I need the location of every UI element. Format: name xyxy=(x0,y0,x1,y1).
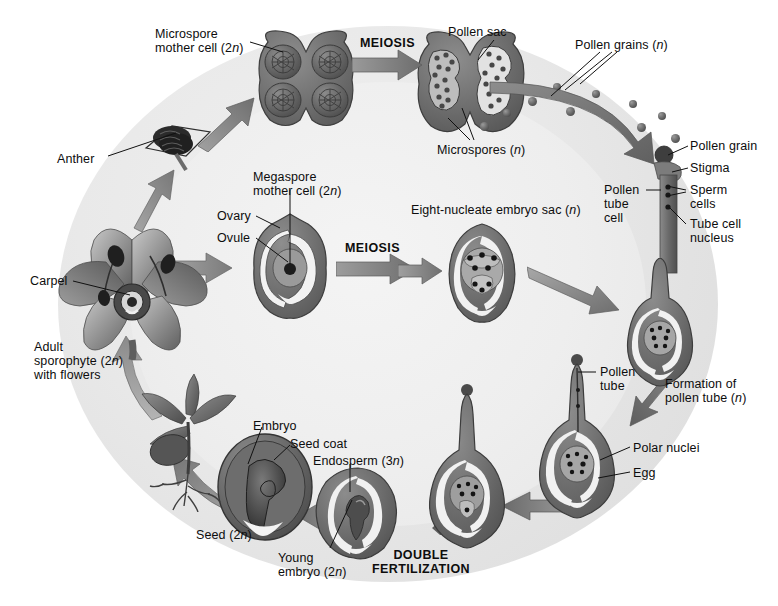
label-megaspore-mother-cell: Megaspore mother cell (2n) xyxy=(253,170,341,198)
life-cycle-diagram: Microspore mother cell (2n) Pollen sac P… xyxy=(0,0,778,606)
label-meiosis-top: MEIOSIS xyxy=(360,36,415,50)
fertilized-ovule-structure xyxy=(420,382,516,552)
arrow-embryosac-to-ovule xyxy=(527,264,623,320)
label-embryo: Embryo xyxy=(253,419,297,433)
label-carpel: Carpel xyxy=(30,274,67,288)
label-polar-nuclei: Polar nuclei xyxy=(633,441,700,455)
anther-structure xyxy=(142,118,214,172)
label-seed-coat: Seed coat xyxy=(290,437,347,451)
label-egg: Egg xyxy=(633,466,656,480)
label-meiosis-middle: MEIOSIS xyxy=(345,241,400,255)
label-microspore-mother-cell: Microspore mother cell (2n) xyxy=(155,27,243,55)
label-microspores: Microspores (n) xyxy=(437,143,525,157)
flower-sporophyte xyxy=(46,200,216,360)
label-pollen-sac: Pollen sac xyxy=(448,25,507,39)
label-sperm-cells: Sperm cells xyxy=(690,183,727,211)
arrow-meiosis-top xyxy=(352,48,424,82)
label-seed: Seed (2n) xyxy=(196,528,252,542)
label-anther: Anther xyxy=(57,152,94,166)
label-ovary: Ovary xyxy=(217,209,251,223)
label-formation-of-pollen-tube: Formation of pollen tube (n) xyxy=(665,377,746,405)
label-stigma: Stigma xyxy=(690,161,730,175)
label-pollen-tube-cell: Pollen tube cell xyxy=(604,183,639,225)
label-young-embryo: Young embryo (2n) xyxy=(278,551,347,579)
label-endosperm: Endosperm (3n) xyxy=(313,454,404,468)
arrow-into-embryo-sac xyxy=(398,256,444,286)
label-pollen-grains: Pollen grains (n) xyxy=(575,38,668,52)
label-embryo-sac: Eight-nucleate embryo sac (n) xyxy=(411,203,581,217)
ovary-ovule-structure xyxy=(248,212,332,322)
seedling-structure xyxy=(128,372,248,512)
microsporangium xyxy=(252,28,360,128)
label-tube-cell-nucleus: Tube cell nucleus xyxy=(690,217,741,245)
germinating-pollen-structure xyxy=(648,145,694,275)
label-adult-sporophyte: Adult sporophyte (2n) with flowers xyxy=(34,340,123,382)
label-pollen-grain: Pollen grain xyxy=(690,139,757,153)
label-ovule: Ovule xyxy=(217,231,250,245)
embryo-sac-structure xyxy=(442,222,522,328)
label-pollen-tube: Pollen tube xyxy=(600,365,635,393)
label-double-fertilization: DOUBLE FERTILIZATION xyxy=(372,548,470,576)
